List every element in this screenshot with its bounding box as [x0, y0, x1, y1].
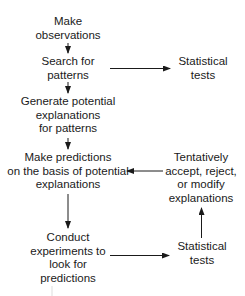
node-text-line: look for	[30, 258, 105, 272]
node-text-line: Make predictions	[7, 151, 128, 165]
node-text-line: experiments to	[30, 245, 105, 259]
node-text-line: Conduct	[30, 231, 105, 245]
node-text-line: Search for	[41, 55, 94, 69]
node-text-line: Make	[35, 15, 100, 29]
node-text-line: Statistical	[178, 55, 227, 69]
node-text-line: or modify	[165, 178, 237, 192]
node-text-line: patterns	[41, 69, 94, 83]
node-conduct-experiments: Conduct experiments to look for predicti…	[30, 231, 105, 285]
node-tentatively-accept-reject-modify: Tentatively accept, reject, or modify ex…	[165, 151, 237, 205]
node-text-line: observations	[35, 29, 100, 43]
node-text-line: accept, reject,	[165, 165, 237, 179]
node-text-line: Statistical	[177, 240, 226, 254]
node-text-line: tests	[177, 254, 226, 268]
node-text-line: Tentatively	[165, 151, 237, 165]
node-text-line: explanations	[21, 109, 116, 123]
node-generate-explanations: Generate potential explanations for patt…	[21, 95, 116, 136]
node-text-line: tests	[178, 69, 227, 83]
node-statistical-tests-bottom: Statistical tests	[177, 240, 226, 267]
node-text-line: Generate potential	[21, 95, 116, 109]
node-text-line: explanations	[7, 178, 128, 192]
node-search-for-patterns: Search for patterns	[41, 55, 94, 82]
node-text-line: explanations	[165, 192, 237, 206]
node-text-line: predictions	[30, 272, 105, 286]
node-text-line: for patterns	[21, 122, 116, 136]
node-make-observations: Make observations	[35, 15, 100, 42]
node-make-predictions: Make predictions on the basis of potenti…	[7, 151, 128, 192]
node-text-line: on the basis of potential	[7, 165, 128, 179]
node-statistical-tests-top: Statistical tests	[178, 55, 227, 82]
